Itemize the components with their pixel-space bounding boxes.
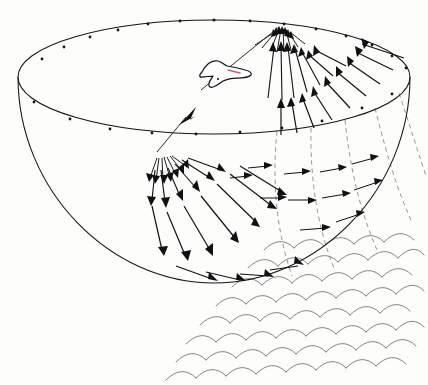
- gull-eye: [217, 78, 219, 80]
- wave-row: [200, 304, 410, 325]
- figure-container: Hemispherical wave field with gull above…: [0, 0, 428, 385]
- rim-tick: [33, 101, 36, 104]
- meridian-curve: [399, 93, 426, 176]
- rim-tick: [41, 58, 44, 61]
- rim-tick: [249, 20, 252, 23]
- rim-tick: [239, 131, 242, 134]
- rim-tick: [63, 46, 66, 49]
- rim-tick: [391, 55, 394, 58]
- rim-tick: [117, 29, 120, 32]
- rim-tick: [315, 28, 318, 31]
- upper-source-fan: [255, 26, 404, 135]
- rim-tick: [361, 107, 364, 110]
- meridian-curves: [275, 93, 426, 276]
- gull-silhouette: [200, 61, 252, 87]
- lower-source-fan: [146, 156, 304, 281]
- rim-tick: [69, 118, 72, 121]
- gull-figure: [200, 61, 252, 87]
- rim-tick: [179, 20, 182, 23]
- wave-row: [216, 285, 424, 306]
- rim-tick: [151, 132, 154, 135]
- wave-row: [264, 233, 414, 250]
- hemisphere-wave-diagram: [0, 0, 428, 385]
- meridian-curve: [345, 120, 378, 252]
- rim-tick: [109, 128, 112, 131]
- meridian-curve: [275, 131, 292, 276]
- rim-tick: [371, 44, 374, 47]
- rim-tick: [213, 19, 216, 22]
- rim-tick: [89, 36, 92, 39]
- rim-tick: [147, 23, 150, 26]
- wave-row: [186, 321, 424, 344]
- wave-row: [176, 339, 416, 362]
- main-ray-arrowhead: [179, 107, 196, 125]
- meridian-curve: [375, 108, 412, 222]
- rim-tick: [283, 23, 286, 26]
- rim-tick: [195, 133, 198, 136]
- water-surface-waves: [166, 233, 424, 380]
- rim-tick: [321, 120, 324, 123]
- rim-tick: [345, 35, 348, 38]
- wave-row: [166, 357, 406, 380]
- rim-tick: [391, 93, 394, 96]
- wave-row: [248, 249, 424, 268]
- rim-tick: [405, 67, 408, 70]
